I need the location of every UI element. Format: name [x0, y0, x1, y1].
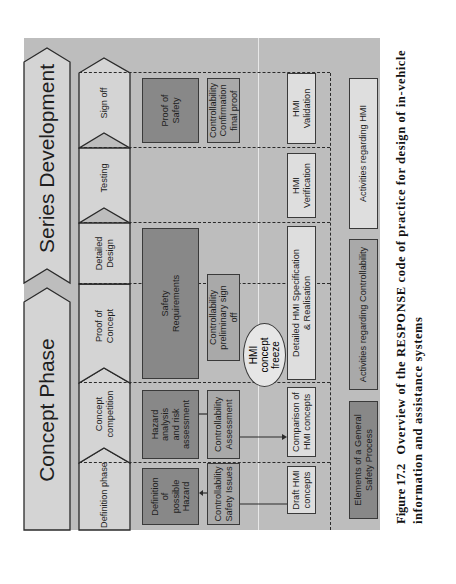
hmi-comparison: Comparison of HMI concepts [287, 387, 316, 457]
connectors [0, 0, 456, 584]
hmi-draft-concepts: Draft HMI concepts [287, 466, 316, 514]
hmi-validation: HMI Validation [287, 73, 316, 144]
caption-text: Overview of the RESPONSE code of practic… [394, 50, 425, 524]
hmi-freeze-label: HMI concept freeze [248, 324, 281, 386]
legend-safety: Elements of a General Safety Process [349, 401, 378, 519]
legend-controllability: Activities regarding Controllability [349, 239, 378, 390]
caption-number: Figure 17.2 [394, 464, 408, 524]
hmi-freeze-ellipse: HMI concept freeze [243, 323, 286, 387]
legend-hmi: Activities regarding HMI [349, 78, 378, 229]
hmi-specification: Detailed HMI Specification & Realisation [287, 226, 316, 380]
figure-caption: Figure 17.2 Overview of the RESPONSE cod… [393, 34, 427, 524]
hmi-verification: HMI Verification [287, 153, 316, 218]
rotated-diagram: Concept Phase Series Development Definit… [0, 0, 456, 584]
